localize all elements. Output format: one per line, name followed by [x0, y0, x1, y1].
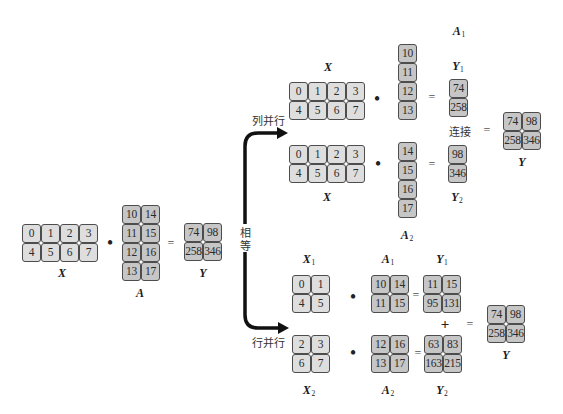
matrix-cell: 4: [289, 164, 308, 183]
row-parallel-label: 行并行: [252, 334, 285, 350]
matrix-x: 01234567: [22, 224, 98, 262]
label-a1: A1: [382, 252, 394, 267]
matrix-cell: 7: [346, 164, 365, 183]
matrix-y-concat-result: 7498258346: [503, 112, 541, 150]
matrix-cell: 3: [79, 224, 98, 243]
matrix-cell: 95: [423, 294, 442, 313]
matrix-cell: 16: [398, 180, 417, 199]
matrix-cell: 2: [327, 145, 346, 164]
matrix-cell: 0: [289, 145, 308, 164]
matrix-x1: 0145: [292, 275, 330, 313]
matrix-cell: 16: [141, 243, 160, 262]
matrix-cell: 258: [184, 242, 203, 261]
matrix-cell: 74: [487, 305, 506, 324]
matrix-a2: 14151617: [398, 142, 417, 218]
label-y1: Y1: [436, 252, 448, 267]
matrix-cell: 4: [22, 243, 41, 262]
matrix-cell: 346: [506, 324, 525, 343]
plus-operator: +: [441, 316, 450, 333]
bottom-branch-arrow: [245, 252, 289, 334]
top-branch-arrow: [245, 127, 288, 224]
matrix-cell: 0: [289, 82, 308, 101]
matrix-cell: 4: [289, 101, 308, 120]
matrix-cell: 16: [390, 335, 409, 354]
matrix-cell: 6: [60, 243, 79, 262]
label-x1: X1: [303, 252, 315, 267]
matrix-cell: 10: [398, 44, 417, 63]
matrix-y1: 111595131: [423, 275, 461, 313]
matrix-cell: 12: [398, 82, 417, 101]
label-y-concat-result: Y: [518, 155, 525, 170]
label-y: Y: [199, 266, 206, 281]
matrix-cell: 5: [308, 101, 327, 120]
matrix-cell: 98: [448, 145, 467, 164]
matrix-cell: 215: [443, 354, 462, 373]
matrix-cell: 14: [390, 275, 409, 294]
matrix-cell: 17: [141, 262, 160, 281]
matrix-cell: 10: [122, 205, 141, 224]
matrix-cell: 131: [442, 294, 461, 313]
matrix-cell: 5: [41, 243, 60, 262]
matrix-cell: 74: [184, 223, 203, 242]
matrix-cell: 14: [398, 142, 417, 161]
matrix-x-bottom: 01234567: [289, 145, 365, 183]
matrix-cell: 11: [122, 224, 141, 243]
equals-operator: =: [168, 236, 175, 251]
matrix-x-top: 01234567: [289, 82, 365, 120]
equal-label-char-2: 等: [240, 237, 251, 253]
matrix-cell: 11: [371, 294, 390, 313]
matrix-cell: 1: [308, 82, 327, 101]
matrix-cell: 14: [141, 205, 160, 224]
matrix-cell: 4: [292, 294, 311, 313]
dot-operator: •: [374, 90, 380, 108]
label-a1: A1: [453, 24, 465, 39]
matrix-cell: 7: [346, 101, 365, 120]
label-x-top: X: [324, 60, 332, 75]
matrix-cell: 13: [122, 262, 141, 281]
matrix-cell: 3: [346, 82, 365, 101]
matrix-cell: 346: [448, 164, 467, 183]
matrix-cell: 5: [311, 294, 330, 313]
matrix-cell: 0: [292, 275, 311, 294]
label-a2: A2: [382, 383, 394, 398]
matrix-cell: 1: [41, 224, 60, 243]
matrix-cell: 2: [60, 224, 79, 243]
matrix-cell: 258: [449, 98, 468, 117]
column-parallel-label: 列并行: [252, 112, 285, 128]
matrix-cell: 13: [371, 354, 390, 373]
dot-operator: •: [107, 234, 113, 252]
equals-operator: =: [429, 157, 436, 172]
matrix-y-sum-result: 7498258346: [487, 305, 525, 343]
label-a2: A2: [401, 228, 413, 243]
label-x2: X2: [303, 383, 315, 398]
matrix-cell: 13: [398, 101, 417, 120]
label-a: A: [136, 286, 144, 301]
matrix-cell: 11: [398, 63, 417, 82]
matrix-cell: 6: [292, 354, 311, 373]
matrix-cell: 17: [398, 199, 417, 218]
dot-operator: •: [350, 344, 356, 362]
matrix-y2: 6383163215: [424, 335, 462, 373]
matrix-cell: 17: [390, 354, 409, 373]
matrix-cell: 98: [506, 305, 525, 324]
equals-operator: =: [413, 288, 420, 303]
matrix-y: 7498258346: [184, 223, 222, 261]
matrix-cell: 12: [371, 335, 390, 354]
matrix-cell: 74: [503, 112, 522, 131]
matrix-cell: 15: [442, 275, 461, 294]
matrix-cell: 346: [203, 242, 222, 261]
matrix-cell: 0: [22, 224, 41, 243]
label-y2: Y2: [436, 383, 448, 398]
matrix-a1: 10141115: [371, 275, 409, 313]
matrix-cell: 7: [311, 354, 330, 373]
matrix-a2: 12161317: [371, 335, 409, 373]
label-y-sum-result: Y: [502, 348, 509, 363]
matrix-cell: 15: [398, 161, 417, 180]
matrix-cell: 346: [522, 131, 541, 150]
matrix-cell: 3: [311, 335, 330, 354]
equals-operator: =: [484, 123, 491, 138]
matrix-cell: 6: [327, 164, 346, 183]
matrix-cell: 83: [443, 335, 462, 354]
matrix-cell: 5: [308, 164, 327, 183]
matrix-cell: 10: [371, 275, 390, 294]
